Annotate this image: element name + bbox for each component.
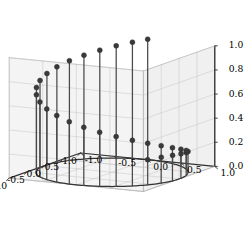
axis-tick-label: 0.5 (44, 161, 59, 172)
axis-tick-label: 0.0 (229, 160, 244, 171)
axis-tick-label: 1.0 (229, 39, 244, 50)
axis-tick-label: 0.0 (153, 161, 168, 172)
axis-tick-label: -0.5 (118, 157, 136, 168)
axis-tick-label: -1.0 (0, 180, 7, 191)
axis-tick-label: 0.6 (229, 88, 244, 99)
axis-tick-label: 1.0 (62, 155, 77, 166)
axis-tick-label: 0.0 (27, 168, 42, 179)
axis-tick-label: 0.4 (229, 112, 244, 123)
figure-canvas: -1.0-0.50.00.51.01.00.50.0-0.5-1.00.00.2… (0, 0, 252, 234)
axis-tick-label: -0.5 (7, 174, 25, 185)
axis-tick-label: 0.2 (229, 136, 244, 147)
axis-tick-label: -1.0 (85, 154, 103, 165)
axis-tick-label: 0.8 (229, 63, 244, 74)
axis-tick-label: 0.5 (187, 164, 202, 175)
chart-3d-stem-plot: -1.0-0.50.00.51.01.00.50.0-0.5-1.00.00.2… (0, 0, 252, 234)
